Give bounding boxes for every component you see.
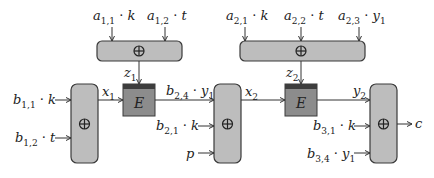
encryption-label-2: E	[296, 95, 306, 111]
label-b24-y1: b2,4 · y1	[166, 84, 214, 101]
diagram-canvas	[0, 0, 434, 178]
label-b12-t: b1,2 · t	[15, 131, 55, 148]
label-b34-y1: b3,4 · y1	[307, 147, 355, 164]
encryption-label-1: E	[134, 95, 144, 111]
xor-block-2	[214, 84, 241, 163]
label-b31-k: b3,1 · k	[313, 119, 356, 136]
top-xor-block-2	[240, 41, 365, 61]
label-z1: z1	[124, 66, 137, 83]
label-b21-k: b2,1 · k	[156, 119, 199, 136]
label-z2: z2	[286, 66, 299, 83]
label-x1: x1	[102, 85, 115, 102]
label-y2: y2	[353, 84, 366, 101]
label-a22-t: a2,2 · t	[284, 9, 324, 26]
xor-block-1	[71, 84, 98, 163]
xor-block-3	[370, 84, 397, 163]
top-xor-block-1	[97, 41, 182, 61]
label-a23-y1: a2,3 · y1	[338, 9, 386, 26]
label-c: c	[415, 117, 422, 130]
label-b11-k: b1,1 · k	[13, 93, 56, 110]
label-p: p	[186, 147, 194, 160]
label-a11-k: a1,1 · k	[93, 9, 135, 26]
label-a21-k: a2,1 · k	[226, 9, 268, 26]
label-x2: x2	[245, 85, 258, 102]
label-a12-t: a1,2 · t	[147, 9, 187, 26]
